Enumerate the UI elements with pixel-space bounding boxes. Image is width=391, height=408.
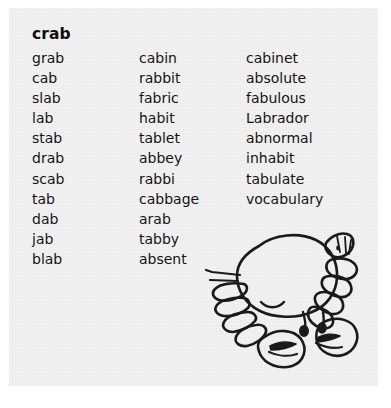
list-item: lab: [32, 108, 64, 128]
word-column-3: cabinet absolute fabulous Labrador abnor…: [246, 48, 323, 209]
list-item: grab: [32, 48, 64, 68]
word-column-2: cabin rabbit fabric habit tablet abbey r…: [139, 48, 199, 269]
list-item: fabric: [139, 88, 199, 108]
list-item: cabin: [139, 48, 199, 68]
list-item: rabbit: [139, 68, 199, 88]
crab-icon: [204, 226, 379, 371]
list-item: inhabit: [246, 148, 323, 168]
page-title: crab: [32, 25, 71, 43]
list-item: cabinet: [246, 48, 323, 68]
list-item: scab: [32, 169, 64, 189]
list-item: arab: [139, 209, 199, 229]
list-item: drab: [32, 148, 64, 168]
word-column-1: grab cab slab lab stab drab scab tab dab…: [32, 48, 64, 269]
list-item: abbey: [139, 148, 199, 168]
list-item: dab: [32, 209, 64, 229]
list-item: absolute: [246, 68, 323, 88]
list-item: vocabulary: [246, 189, 323, 209]
list-item: abnormal: [246, 128, 323, 148]
list-item: stab: [32, 128, 64, 148]
worksheet-panel: crab grab cab slab lab stab drab scab ta…: [9, 8, 378, 386]
list-item: rabbi: [139, 169, 199, 189]
list-item: tabby: [139, 229, 199, 249]
list-item: jab: [32, 229, 64, 249]
list-item: blab: [32, 249, 64, 269]
list-item: cab: [32, 68, 64, 88]
list-item: absent: [139, 249, 199, 269]
list-item: tablet: [139, 128, 199, 148]
list-item: fabulous: [246, 88, 323, 108]
list-item: Labrador: [246, 108, 323, 128]
list-item: habit: [139, 108, 199, 128]
list-item: slab: [32, 88, 64, 108]
list-item: tab: [32, 189, 64, 209]
list-item: tabulate: [246, 169, 323, 189]
list-item: cabbage: [139, 189, 199, 209]
